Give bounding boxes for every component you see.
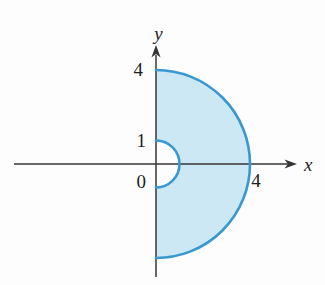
figure-canvas: y x 4 1 0 4 <box>0 0 325 285</box>
origin-label: 0 <box>137 171 147 192</box>
tick-label-y-4: 4 <box>134 59 144 80</box>
y-axis-label: y <box>152 23 163 44</box>
x-axis-label: x <box>303 154 313 175</box>
half-annulus-figure: y x 4 1 0 4 <box>0 0 325 285</box>
tick-label-x-4: 4 <box>251 170 261 191</box>
tick-label-y-1: 1 <box>137 130 147 151</box>
